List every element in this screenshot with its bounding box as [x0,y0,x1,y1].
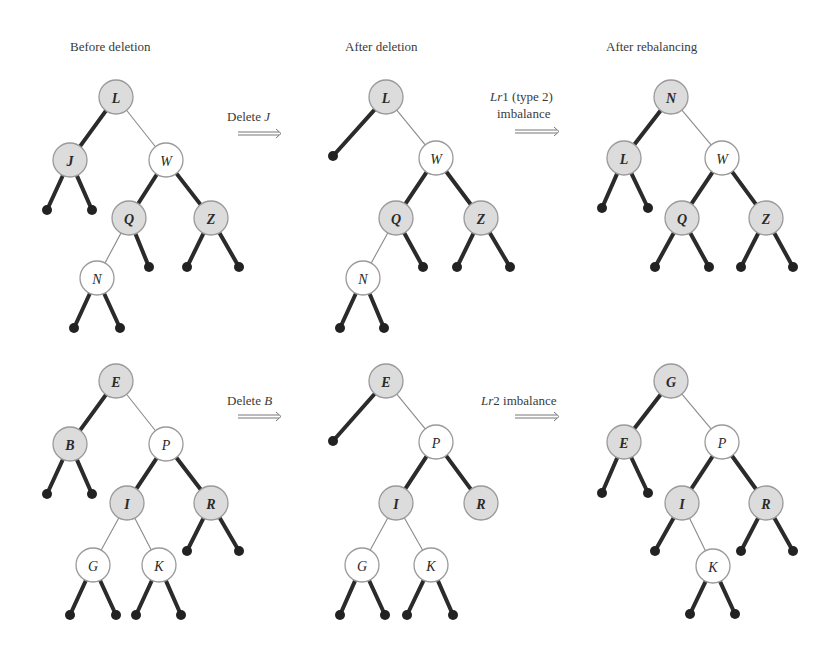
edge-B-null [47,459,63,494]
node-label: P [431,436,441,451]
edge-K-null [165,580,181,615]
null-leaf-icon [788,262,798,272]
header-after-deletion: After deletion [345,39,418,54]
edge-N-null [74,293,90,328]
edge-P-I [136,457,157,489]
edge-G-null [340,580,356,615]
node-label: Z [476,212,486,227]
node-Z: Z [194,201,228,235]
edge-I-K [404,517,423,551]
edge-P-I [691,455,713,489]
edge-L-W [126,110,156,148]
null-leaf-icon [182,262,192,272]
edge-Z-null [489,232,510,267]
node-L: L [369,80,403,114]
edge-N-null [340,293,356,328]
edge-Z-null [187,232,204,267]
null-leaf-icon [87,205,97,215]
node-label: G [666,375,676,390]
node-label: W [430,152,443,167]
edge-G-P [681,393,711,429]
node-P: P [419,425,453,459]
null-leaf-icon [234,262,244,272]
edge-E-P [126,394,156,432]
node-label: L [619,152,629,167]
edge-I-G [370,517,389,551]
row2-imbalance-label: Lr2 imbalance [480,393,557,408]
null-leaf-icon [402,610,412,620]
edge-E-null [631,456,648,493]
node-label: I [678,497,685,512]
edge-Q-null [135,233,149,267]
null-leaf-icon [448,610,458,620]
node-L: L [99,80,133,114]
null-leaf-icon [144,262,154,272]
edge-J-null [47,175,63,210]
node-label: K [707,560,718,575]
null-leaf-icon [42,489,52,499]
node-label: E [618,436,628,451]
null-leaf-icon [788,546,798,556]
null-leaf-icon [335,323,345,333]
edge-L-null [602,173,618,208]
node-N: N [346,261,380,295]
null-leaf-icon [328,151,338,161]
node-label: I [392,497,399,512]
edge-P-R [445,455,471,490]
tree-row1-after-deletion: LWQZN [328,80,515,333]
tree-row2-after-rebalancing: GEPIRK [597,364,798,619]
trees-layer: LJWQZNLWQZNNLWQZEBPIRGKEPIRGKGEPIRK [42,80,798,620]
null-leaf-icon [335,610,345,620]
node-Z: Z [464,201,498,235]
node-Q: Q [379,201,413,235]
edge-N-null [104,293,120,328]
node-label: I [123,497,130,512]
node-Q: Q [112,201,146,235]
node-B: B [53,427,87,461]
edge-W-Z [446,171,472,205]
node-P: P [705,425,739,459]
edge-G-null [369,580,385,615]
null-leaf-icon [87,489,97,499]
tree-row2-before-deletion: EBPIRGK [42,364,244,620]
node-label: Z [761,212,771,227]
node-G: G [654,364,688,398]
node-label: E [110,375,120,390]
row1-delete-arrow-icon [238,129,281,138]
node-N: N [654,80,688,114]
node-I: I [379,486,413,520]
edge-I-G [101,517,120,551]
node-label: P [717,436,727,451]
node-K: K [696,549,730,583]
node-label: K [425,559,436,574]
edge-N-W [681,109,711,145]
null-leaf-icon [685,609,695,619]
node-label: Q [124,212,134,227]
null-leaf-icon [111,610,121,620]
node-G: G [76,548,110,582]
null-leaf-icon [328,436,338,446]
edge-G-null [70,580,86,615]
null-leaf-icon [730,609,740,619]
null-leaf-icon [418,262,428,272]
edge-Q-null [655,232,674,267]
node-I: I [665,486,699,520]
node-W: W [705,141,739,175]
edge-K-null [690,580,706,614]
node-Z: Z [749,201,783,235]
edge-K-null [407,579,424,615]
null-leaf-icon [505,262,515,272]
null-leaf-icon [65,610,75,620]
node-label: K [153,559,164,574]
null-leaf-icon [643,203,653,213]
node-label: E [380,375,390,390]
node-label: R [760,497,770,512]
null-leaf-icon [176,610,186,620]
edge-E-null [333,393,375,441]
header-after-rebalancing: After rebalancing [606,39,698,54]
edge-W-Z [731,171,756,205]
node-label: N [665,91,677,106]
edge-L-null [333,109,375,156]
null-leaf-icon [597,488,607,498]
null-leaf-icon [736,262,746,272]
